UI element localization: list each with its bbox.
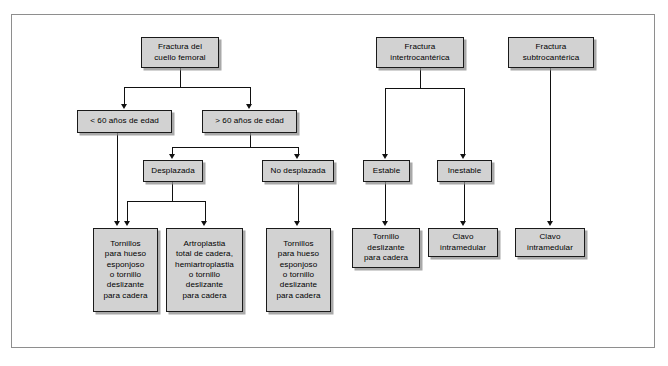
edge-intertroch-to-unstable [464,88,465,154]
node-age-under-60[interactable]: < 60 años de edad [77,110,172,133]
arrow-displaced-to-arthroplasty [201,221,207,226]
edge-root-split [124,87,250,88]
edge-stable-to-sliding-screw [385,182,386,221]
node-treatment-intramedullary-nail-1[interactable]: Clavo intramedular [428,228,498,257]
edge-displaced-split [127,201,205,202]
node-treatment-cancellous-screws-1[interactable]: Tornillos para hueso esponjoso o tornill… [93,228,158,312]
edge-displaced-to-arthroplasty [205,201,206,221]
edge-intertroch-to-stable [385,88,386,154]
node-stable[interactable]: Estable [363,160,410,182]
edge-under60-to-screws1 [117,133,118,221]
edge-root-to-under60 [124,87,125,104]
arrow-intertroch-to-stable [382,154,388,159]
edge-displaced-trunk [172,182,173,201]
node-treatment-arthroplasty[interactable]: Artroplastia total de cadera, hemiartrop… [166,228,243,312]
edge-displaced-to-screws1 [127,201,128,221]
edge-over60-trunk [250,133,251,147]
edge-root-trunk [180,68,181,87]
node-femoral-neck-fracture[interactable]: Fractura del cuello femoral [141,37,219,68]
arrow-unstable-to-nail1 [460,221,466,226]
arrow-root-to-over60 [246,104,252,109]
edge-subtroch-to-nail2 [550,68,551,221]
node-treatment-cancellous-screws-2[interactable]: Tornillos para hueso esponjoso o tornill… [266,228,331,312]
edge-over60-to-displaced [172,147,173,154]
arrow-root-to-under60 [121,104,127,109]
arrow-displaced-to-screws1 [124,221,130,226]
arrow-stable-to-sliding-screw [382,221,388,226]
node-treatment-sliding-hip-screw[interactable]: Tornillo deslizante para cadera [352,228,420,268]
edge-root-to-over60 [250,87,251,104]
node-displaced[interactable]: Desplazada [143,160,203,182]
node-intertrochanteric-fracture[interactable]: Fractura intertrocantérica [376,37,464,68]
arrow-subtroch-to-nail2 [547,221,553,226]
arrow-over60-to-displaced [169,154,175,159]
node-non-displaced[interactable]: No desplazada [262,160,334,182]
node-age-over-60[interactable]: > 60 años de edad [202,110,297,133]
edge-unstable-to-nail1 [464,182,465,221]
figure-canvas: Fractura del cuello femoral < 60 años de… [0,0,668,366]
arrow-intertroch-to-unstable [460,154,466,159]
edge-intertroch-trunk [420,68,421,88]
node-subtrochanteric-fracture[interactable]: Fractura subtrocantérica [508,37,594,68]
edge-over60-to-nondisplaced [298,147,299,154]
edge-nondisplaced-to-screws2 [298,182,299,221]
node-unstable[interactable]: Inestable [437,160,492,182]
arrow-nondisplaced-to-screws2 [294,221,300,226]
edge-over60-split [172,147,298,148]
edge-intertroch-split [385,88,464,89]
arrow-over60-to-nondisplaced [294,154,300,159]
arrow-under60-to-screws1 [114,221,120,226]
node-treatment-intramedullary-nail-2[interactable]: Clavo intramedular [515,228,585,257]
